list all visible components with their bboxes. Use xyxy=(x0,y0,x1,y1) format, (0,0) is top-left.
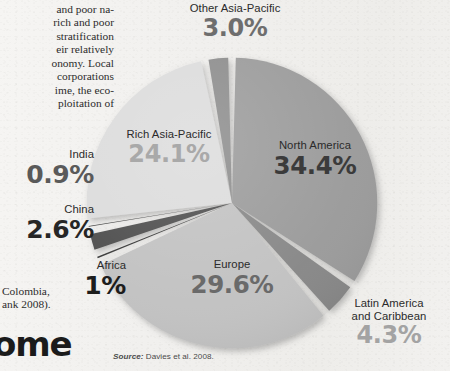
slice-label-percent: 4.3% xyxy=(330,323,448,348)
slice-label-africa: Africa 1% xyxy=(18,259,126,298)
headline-fragment: ome xyxy=(0,327,72,361)
slice-label-north-america: North America 34.4% xyxy=(253,139,377,178)
slice-label-india: India 0.9% xyxy=(0,148,94,187)
left-column-top-paragraph: and poor na- rich and poor stratificatio… xyxy=(0,0,118,111)
body-line: ploitation of xyxy=(0,97,118,110)
slice-label-other-asia-pacific: Other Asia-Pacific 3.0% xyxy=(150,2,320,41)
slice-label-latin-america: Latin America and Caribbean 4.3% xyxy=(330,297,448,348)
left-column-bleed-text: and poor na- rich and poor stratificatio… xyxy=(0,0,118,111)
slice-label-percent: 1% xyxy=(18,273,126,298)
slice-label-china: China 2.6% xyxy=(0,203,94,242)
slice-label-percent: 34.4% xyxy=(253,153,377,178)
body-line: ime, the eco- xyxy=(0,84,118,97)
source-label: Source: xyxy=(113,352,143,361)
body-line: onomy. Local xyxy=(0,57,118,70)
slice-label-percent: 24.1% xyxy=(105,142,233,167)
slice-label-rich-asia-pacific: Rich Asia-Pacific 24.1% xyxy=(105,128,233,167)
slice-label-europe: Europe 29.6% xyxy=(168,258,296,297)
slice-label-percent: 3.0% xyxy=(150,16,320,41)
body-line: and poor na- xyxy=(0,3,118,16)
source-citation: Davies et al. 2008. xyxy=(146,352,214,361)
body-line: eir relatively xyxy=(0,43,118,56)
body-line: stratification xyxy=(0,30,118,43)
slice-label-name: Latin America xyxy=(330,297,448,310)
slice-label-percent: 29.6% xyxy=(168,272,296,297)
slice-label-percent: 2.6% xyxy=(0,217,94,242)
source-note: Source: Davies et al. 2008. xyxy=(113,352,214,361)
body-line: corporations xyxy=(0,70,118,83)
slice-label-percent: 0.9% xyxy=(0,162,94,187)
body-line: rich and poor xyxy=(0,16,118,29)
